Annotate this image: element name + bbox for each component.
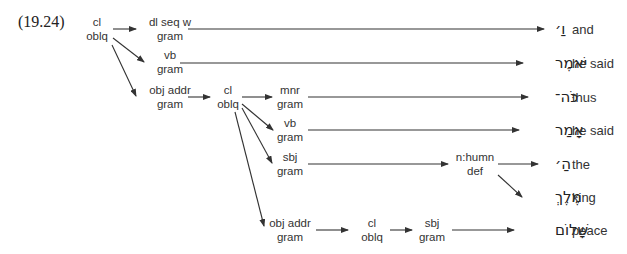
svg-text:gram: gram xyxy=(157,98,183,110)
svg-text:gram: gram xyxy=(277,98,303,110)
svg-text:sbj: sbj xyxy=(283,151,298,163)
svg-text:dl seq w: dl seq w xyxy=(149,16,192,28)
svg-text:obj addr: obj addr xyxy=(149,84,191,96)
edges xyxy=(112,29,544,230)
node-n-humn: n:humn def xyxy=(456,151,494,177)
svg-text:cl: cl xyxy=(368,217,376,229)
svg-text:mnr: mnr xyxy=(280,84,300,96)
svg-text:gram: gram xyxy=(277,231,303,243)
gloss: king xyxy=(572,190,596,205)
svg-text:vb: vb xyxy=(164,49,176,61)
node-obj-addr-2: obj addr gram xyxy=(269,217,311,243)
gloss: he said xyxy=(572,56,614,71)
svg-text:gram: gram xyxy=(277,165,303,177)
svg-text:gram: gram xyxy=(277,131,303,143)
svg-text:sbj: sbj xyxy=(425,217,440,229)
hebrew-word: וַ׳ xyxy=(555,20,565,38)
word-row-4: אָמַר he said xyxy=(555,121,614,139)
svg-text:gram: gram xyxy=(157,63,183,75)
word-row-1: וַ׳ and xyxy=(555,20,594,38)
word-row-2: יֹּאמֶר he said xyxy=(555,54,614,72)
node-root-cl-oblq: cl oblq xyxy=(86,16,108,42)
svg-text:oblq: oblq xyxy=(217,98,239,110)
word-row-7: שָׁלוֹם peace xyxy=(555,221,607,239)
node-sbj-2: sbj gram xyxy=(419,217,445,243)
svg-text:gram: gram xyxy=(419,231,445,243)
node-sbj-1: sbj gram xyxy=(277,151,303,177)
svg-text:cl: cl xyxy=(93,16,101,28)
node-mnr: mnr gram xyxy=(277,84,303,110)
word-row-3: כֹּה־ thus xyxy=(555,88,597,106)
svg-text:def: def xyxy=(467,165,484,177)
hebrew-word: הַ׳ xyxy=(555,155,571,173)
gloss: and xyxy=(572,22,594,37)
svg-text:oblq: oblq xyxy=(86,30,108,42)
svg-text:oblq: oblq xyxy=(361,231,383,243)
svg-text:n:humn: n:humn xyxy=(456,151,494,163)
node-obj-addr-1: obj addr gram xyxy=(149,84,191,110)
svg-text:gram: gram xyxy=(157,30,183,42)
node-vb-2: vb gram xyxy=(277,117,303,143)
gloss: the xyxy=(572,157,590,172)
node-cl-oblq-3: cl oblq xyxy=(361,217,383,243)
word-row-6: מֶּלֶךְ king xyxy=(555,188,596,206)
gloss: he said xyxy=(572,123,614,138)
syntax-tree-diagram: (19.24) cl oblq dl seq w gram vb gram ob… xyxy=(0,0,627,254)
node-dl-seq-w: dl seq w gram xyxy=(149,16,192,42)
node-vb-1: vb gram xyxy=(157,49,183,75)
svg-text:cl: cl xyxy=(224,84,232,96)
gloss: thus xyxy=(572,90,597,105)
node-cl-oblq-2: cl oblq xyxy=(217,84,239,110)
example-number: (19.24) xyxy=(18,13,65,31)
svg-text:obj addr: obj addr xyxy=(269,217,311,229)
svg-text:vb: vb xyxy=(284,117,296,129)
gloss: peace xyxy=(572,223,607,238)
word-row-5: הַ׳ the xyxy=(555,155,590,173)
